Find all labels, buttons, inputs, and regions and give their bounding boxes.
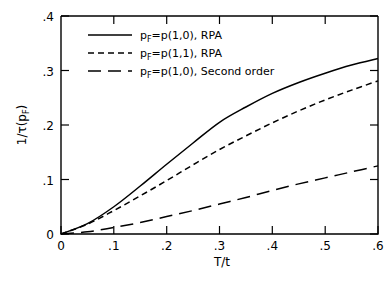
- x-ticklabel-0: 0: [57, 239, 65, 253]
- figure-container: 0 .1 .2 .3 .4 0 .1 .2 .3 .4 .5 .6 T/t 1/…: [0, 0, 392, 282]
- y-axis-title: 1/τ(pF): [15, 105, 31, 146]
- legend: pF=p(1,0), RPA pF=p(1,1), RPA pF=p(1,0),…: [88, 29, 275, 80]
- x-axis-tick-labels: 0 .1 .2 .3 .4 .5 .6: [57, 239, 384, 253]
- y-ticklabel-1: .1: [43, 174, 54, 188]
- x-ticklabel-5: .5: [319, 239, 330, 253]
- y-axis-title-prefix: 1/τ(p: [15, 114, 29, 145]
- legend-label-1-rest: =p(1,1), RPA: [152, 47, 223, 60]
- y-ticklabel-0: 0: [46, 228, 54, 242]
- series-line-pf-p10-rpa: [61, 59, 378, 234]
- x-axis-title: T/t: [213, 255, 230, 269]
- x-axis-title-denominator: t: [225, 255, 230, 269]
- x-ticklabel-3: .3: [214, 239, 225, 253]
- legend-label-2-rest: =p(1,0), Second order: [152, 65, 275, 78]
- svg-text:T/t: T/t: [213, 255, 230, 269]
- legend-label-2-p: p: [140, 65, 147, 78]
- legend-label-0: pF=p(1,0), RPA: [140, 29, 222, 44]
- y-axis-tick-labels: 0 .1 .2 .3 .4: [43, 10, 54, 242]
- legend-label-0-rest: =p(1,0), RPA: [152, 29, 223, 42]
- y-ticklabel-2: .2: [43, 119, 54, 133]
- chart-svg: 0 .1 .2 .3 .4 0 .1 .2 .3 .4 .5 .6 T/t 1/…: [0, 0, 392, 282]
- x-ticklabel-6: .6: [372, 239, 383, 253]
- x-ticklabel-2: .2: [161, 239, 172, 253]
- legend-label-0-p: p: [140, 29, 147, 42]
- y-ticklabel-3: .3: [43, 65, 54, 79]
- series-line-pf-p10-second-order: [61, 166, 378, 234]
- legend-label-1: pF=p(1,1), RPA: [140, 47, 222, 62]
- data-curves: [61, 59, 378, 234]
- y-axis-title-suffix: ): [15, 105, 29, 110]
- legend-label-2: pF=p(1,0), Second order: [140, 65, 275, 80]
- y-ticklabel-4: .4: [43, 10, 54, 24]
- legend-label-1-p: p: [140, 47, 147, 60]
- x-ticklabel-4: .4: [267, 239, 278, 253]
- x-ticklabel-1: .1: [108, 239, 119, 253]
- svg-text:1/τ(pF): 1/τ(pF): [15, 105, 31, 146]
